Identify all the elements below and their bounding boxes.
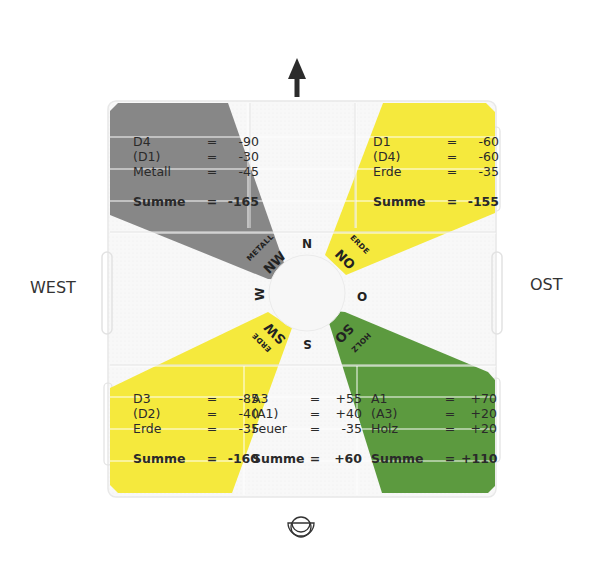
- sector-table-so: A1=+70 (A3)=+20 Holz=+20 Summe=+110: [371, 391, 497, 466]
- table-row: (D2)=-40: [133, 406, 259, 421]
- table-row: (D4)=-60: [373, 149, 499, 164]
- sum-row: Summe=-165: [133, 194, 259, 209]
- table-row: (D1)=-30: [133, 149, 259, 164]
- sector-table-s: A3=+55 (A1)=+40 Feuer=-35 Summe=+60: [252, 391, 362, 466]
- floorplan-diagram: [0, 0, 589, 576]
- entrance-symbol-icon: [288, 517, 314, 537]
- table-row: D1=-60: [373, 134, 499, 149]
- sum-row: Summe=+110: [371, 451, 497, 466]
- table-row: Erde=-35: [373, 164, 499, 179]
- north-arrow-icon: [288, 58, 306, 97]
- west-label: WEST: [30, 278, 76, 297]
- compass-s: S: [303, 337, 312, 351]
- sum-row: Summe=-160: [133, 451, 259, 466]
- compass-n: N: [302, 237, 312, 251]
- table-row: D3=-85: [133, 391, 259, 406]
- sum-row: Summe=-155: [373, 194, 499, 209]
- sum-row: Summe=+60: [252, 451, 362, 466]
- sector-table-no: D1=-60 (D4)=-60 Erde=-35 Summe=-155: [373, 134, 499, 209]
- sector-table-sw: D3=-85 (D2)=-40 Erde=-35 Summe=-160: [133, 391, 259, 466]
- table-row: Feuer=-35: [252, 421, 362, 436]
- east-label: OST: [530, 275, 563, 294]
- compass-o: O: [357, 290, 367, 304]
- table-row: Erde=-35: [133, 421, 259, 436]
- table-row: D4=-90: [133, 134, 259, 149]
- table-row: A3=+55: [252, 391, 362, 406]
- table-row: (A1)=+40: [252, 406, 362, 421]
- table-row: Holz=+20: [371, 421, 497, 436]
- table-row: A1=+70: [371, 391, 497, 406]
- table-row: Metall=-45: [133, 164, 259, 179]
- table-row: (A3)=+20: [371, 406, 497, 421]
- sector-table-nw: D4=-90 (D1)=-30 Metall=-45 Summe=-165: [133, 134, 259, 209]
- compass-w: W: [253, 287, 267, 300]
